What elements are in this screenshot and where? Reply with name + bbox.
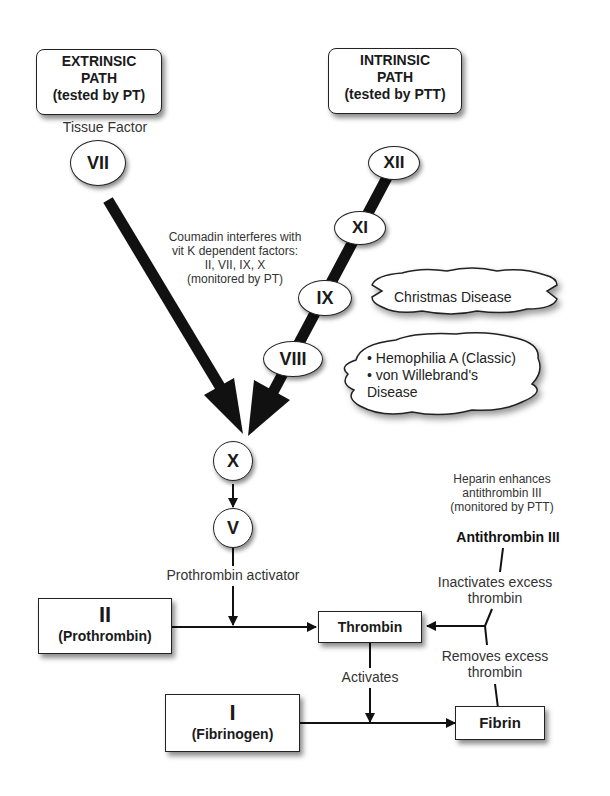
- thrombin-box: Thrombin: [318, 611, 422, 643]
- extrinsic-test: (tested by PT): [37, 87, 161, 104]
- activates-label: Activates: [330, 670, 410, 685]
- prothrombin-numeral: II: [39, 603, 171, 627]
- extrinsic-path-box: EXTRINSIC PATH (tested by PT): [36, 49, 162, 115]
- coumadin-line-1: Coumadin interferes with: [150, 230, 320, 244]
- hemophilia-line-2: • von Willebrand's: [367, 367, 516, 384]
- heparin-line-3: (monitored by PTT): [440, 500, 564, 514]
- fibrinogen-name: (Fibrinogen): [166, 725, 299, 743]
- antithrombin-label: Antithrombin III: [446, 530, 570, 545]
- fibrin-box: Fibrin: [455, 706, 545, 740]
- extrinsic-title: EXTRINSIC: [37, 53, 161, 70]
- intrinsic-subtitle: PATH: [329, 69, 461, 86]
- coumadin-line-2: vit K dependent factors:: [150, 244, 320, 258]
- inactivates-line-1: Inactivates excess: [425, 574, 565, 590]
- christmas-disease-label: Christmas Disease: [394, 289, 511, 306]
- hemophilia-line-3: Disease: [367, 384, 516, 401]
- heparin-line-2: antithrombin III: [440, 486, 564, 500]
- factor-v-node: V: [213, 508, 253, 548]
- inactivates-line-2: thrombin: [425, 590, 565, 606]
- factor-viii-node: VIII: [263, 341, 323, 377]
- tissue-factor-label: Tissue Factor: [55, 120, 155, 135]
- prothrombin-name: (Prothrombin): [39, 627, 171, 645]
- intrinsic-test: (tested by PTT): [329, 86, 461, 103]
- intrinsic-title: INTRINSIC: [329, 52, 461, 69]
- prothrombin-box: II (Prothrombin): [38, 598, 172, 654]
- factor-xii-node: XII: [368, 146, 420, 180]
- removes-label: Removes excess thrombin: [425, 648, 565, 680]
- removes-line-1: Removes excess: [425, 648, 565, 664]
- removes-line-2: thrombin: [425, 664, 565, 680]
- prothrombin-activator-label: Prothrombin activator: [150, 568, 316, 583]
- intrinsic-path-box: INTRINSIC PATH (tested by PTT): [328, 48, 462, 114]
- factor-x-node: X: [213, 441, 253, 481]
- inactivates-label: Inactivates excess thrombin: [425, 574, 565, 606]
- heparin-note: Heparin enhances antithrombin III (monit…: [440, 472, 564, 514]
- hemophilia-line-1: • Hemophilia A (Classic): [367, 350, 516, 367]
- coumadin-line-4: (monitored by PT): [150, 272, 320, 286]
- extrinsic-subtitle: PATH: [37, 70, 161, 87]
- fibrinogen-box: I (Fibrinogen): [165, 694, 300, 752]
- heparin-line-1: Heparin enhances: [440, 472, 564, 486]
- coumadin-note: Coumadin interferes with vit K dependent…: [150, 230, 320, 286]
- hemophilia-label: • Hemophilia A (Classic) • von Willebran…: [367, 350, 516, 401]
- factor-vii-node: VII: [70, 140, 126, 186]
- factor-xi-node: XI: [334, 211, 386, 245]
- coumadin-line-3: II, VII, IX, X: [150, 258, 320, 272]
- fibrinogen-numeral: I: [166, 701, 299, 725]
